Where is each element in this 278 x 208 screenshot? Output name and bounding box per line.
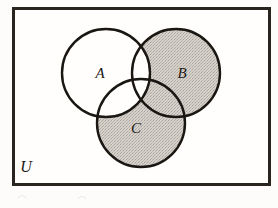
venn-diagram-canvas: A B C U (0, 0, 278, 208)
set-a-label: A (94, 65, 105, 81)
set-c-label: C (131, 120, 142, 136)
universe-label: U (20, 158, 33, 175)
set-b-label: B (177, 65, 186, 81)
shaded-region-b-union-c-minus-a (0, 0, 278, 208)
universe-interior (0, 0, 278, 208)
venn-diagram-figure: A B C U (0, 0, 278, 208)
